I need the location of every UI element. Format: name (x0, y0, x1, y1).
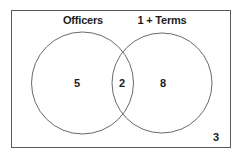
set-label-officers: Officers (63, 14, 103, 26)
venn-diagram-figure: Officers 1 + Terms 5 2 8 3 (0, 0, 241, 157)
count-officers-only: 5 (74, 77, 80, 89)
count-one-plus-terms-only: 8 (160, 77, 166, 89)
count-outside-sets: 3 (213, 131, 219, 143)
set-label-one-plus-terms: 1 + Terms (137, 14, 186, 26)
count-intersection: 2 (119, 77, 125, 89)
